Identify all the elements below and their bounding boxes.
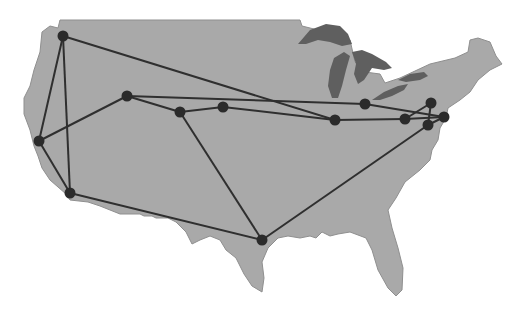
node-sanfrancisco — [34, 136, 45, 147]
us-network-map — [0, 0, 524, 312]
node-losangeles — [65, 188, 76, 199]
node-denver — [175, 107, 186, 118]
node-detroit — [360, 99, 371, 110]
edge-chicago-pittsburgh — [335, 119, 405, 120]
node-ithaca — [426, 98, 437, 109]
node-chicago — [330, 115, 341, 126]
node-pittsburgh — [400, 114, 411, 125]
node-houston — [257, 235, 268, 246]
node-newyork — [439, 112, 450, 123]
land-layer — [24, 20, 502, 296]
node-saltlake — [122, 91, 133, 102]
us-landmass — [24, 20, 502, 296]
node-seattle — [58, 31, 69, 42]
node-lincoln — [218, 102, 229, 113]
node-washington — [423, 120, 434, 131]
